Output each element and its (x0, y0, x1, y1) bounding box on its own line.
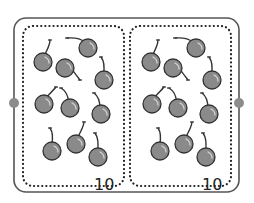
count-label-right: 10 (202, 175, 222, 194)
right-connector-dot (234, 98, 244, 108)
cherry-icon (43, 128, 61, 160)
cherry-icon (67, 122, 86, 153)
cherry-icon (200, 93, 218, 123)
cherry-icon (151, 128, 169, 160)
cherry-counting-card: 10 10 (0, 0, 254, 203)
cherry-icon (164, 59, 190, 80)
cherry-icon (89, 133, 107, 166)
cherry-icon (142, 40, 160, 71)
group-right: 10 (130, 26, 231, 194)
cherry-icon (56, 59, 82, 80)
cherry-icon (167, 88, 187, 117)
cherry-icon (35, 87, 58, 113)
cherry-icon (173, 38, 205, 57)
cherry-icon (95, 57, 113, 89)
cherry-icon (175, 122, 194, 153)
cherry-icon (59, 88, 79, 117)
cherry-icon (203, 57, 221, 89)
count-label-left: 10 (94, 175, 114, 194)
cherries-left (34, 38, 113, 166)
group-left: 10 (23, 26, 124, 194)
cherry-icon (65, 38, 97, 57)
left-connector-dot (9, 98, 19, 108)
cherry-icon (92, 93, 110, 123)
cherry-icon (143, 87, 166, 113)
cherries-right (142, 38, 221, 166)
cherry-icon (197, 133, 215, 166)
cherry-icon (34, 40, 52, 71)
